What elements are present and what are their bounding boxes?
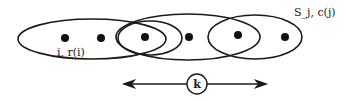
element-dot [185,33,193,41]
diagram-svg: i, r(i) S_j, c(j) k [0,0,349,101]
element-dot [281,33,289,41]
element-dot [61,34,69,42]
set-cover-diagram: i, r(i) S_j, c(j) k [0,0,349,101]
element-label: i, r(i) [57,46,85,59]
element-dot [141,33,149,41]
distance-label: k [193,78,201,91]
set-label: S_j, c(j) [294,6,336,19]
element-dot [97,34,105,42]
element-dot [234,31,242,39]
